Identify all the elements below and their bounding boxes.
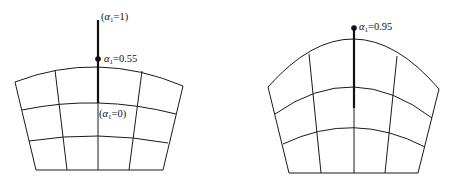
right-label-alpha-current: α1=0.95 [359,21,392,34]
right-mesh-left-edge [268,87,289,173]
left-mesh-right-edge [163,86,183,170]
left-mesh-col-line-3 [129,71,142,170]
right-alpha-marker [351,25,357,31]
right-mesh-right-edge [418,89,439,173]
left-alpha-marker [95,56,101,62]
left-label-alpha-current: α1=0.55 [104,53,137,66]
right-mesh-col-line-3 [385,56,397,173]
left-label-alpha-1: (α1=1) [101,11,129,24]
left-mesh-left-edge [15,82,36,170]
right-mesh-col-line-1 [309,54,321,173]
figure: (α1=1) α1=0.55 (α1=0) α1=0.95 [0,0,453,186]
left-label-alpha-0: (α1=0) [99,108,127,121]
left-mesh-col-line-1 [55,70,67,170]
